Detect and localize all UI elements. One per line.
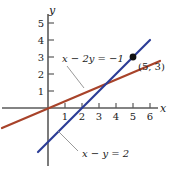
axes-group [2, 14, 158, 166]
x-tick-label-1: 1 [62, 111, 68, 122]
y-axis-ticks [48, 23, 54, 91]
equation-label-blue: x − y = 2 [82, 148, 129, 159]
y-axis-label: y [48, 4, 56, 17]
y-tick-label-4: 4 [38, 35, 44, 46]
intersection-point-label: (5, 3) [138, 61, 165, 72]
equation-label-red: x − 2y = −1 [62, 53, 124, 64]
x-tick-label-2: 2 [79, 111, 85, 122]
leader-line-red [67, 66, 84, 88]
x-axis-label: x [160, 102, 167, 115]
x-tick-label-4: 4 [113, 111, 119, 122]
x-tick-label-5: 5 [130, 111, 136, 122]
coordinate-plane: 1 2 3 4 5 6 1 2 3 4 5 x y x − 2y = −1 x … [0, 0, 173, 170]
y-tick-label-5: 5 [38, 18, 44, 29]
y-tick-label-1: 1 [38, 86, 44, 97]
leader-line-blue [58, 131, 78, 151]
x-tick-label-6: 6 [147, 111, 153, 122]
x-tick-label-3: 3 [96, 111, 102, 122]
graph-figure: 1 2 3 4 5 6 1 2 3 4 5 x y x − 2y = −1 x … [0, 0, 173, 170]
y-tick-label-2: 2 [38, 69, 44, 80]
y-tick-label-3: 3 [38, 52, 44, 63]
intersection-point-marker [130, 54, 137, 61]
